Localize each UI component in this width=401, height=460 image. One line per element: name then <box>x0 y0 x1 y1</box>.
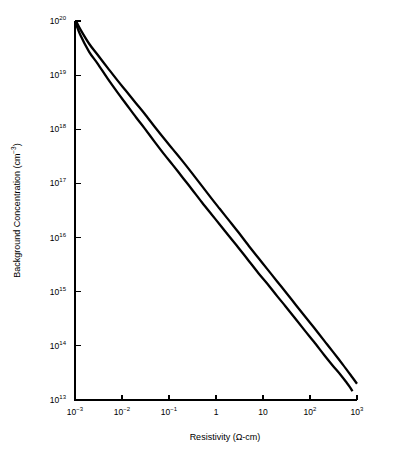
x-axis-title: Resistivity (Ω-cm) <box>190 432 261 442</box>
resistivity-concentration-chart: 10−310−210−1110102103 101310141015101610… <box>0 0 401 460</box>
y-axis-title: Background Concentration (cm−3) <box>10 143 22 277</box>
x-tick-label: 10 <box>258 407 268 417</box>
x-tick-label: 102 <box>304 406 317 417</box>
y-tick-label: 1017 <box>50 177 67 188</box>
y-tick-label: 1015 <box>50 286 67 297</box>
chart-canvas: 10−310−210−1110102103 101310141015101610… <box>0 0 401 460</box>
x-tick-label: 10−3 <box>67 406 84 417</box>
y-tick-label: 1018 <box>50 123 67 134</box>
y-tick-label: 1014 <box>50 340 67 351</box>
y-tick-labels-group: 10131014101510161017101810191020 <box>50 15 67 405</box>
x-tick-label: 1 <box>214 407 219 417</box>
axis-titles-group: Resistivity (Ω-cm)Background Concentrati… <box>10 143 260 442</box>
y-tick-label: 1016 <box>50 232 67 243</box>
y-tick-label: 1019 <box>50 69 67 80</box>
x-tick-labels-group: 10−310−210−1110102103 <box>67 406 364 417</box>
data-curve <box>76 21 357 384</box>
x-tick-label: 10−1 <box>161 406 178 417</box>
data-curve <box>75 21 352 391</box>
x-tick-label: 10−2 <box>114 406 131 417</box>
y-tick-label: 1020 <box>50 15 67 26</box>
x-tick-label: 103 <box>351 406 364 417</box>
y-tick-label: 1013 <box>50 394 67 405</box>
data-curves-group <box>75 21 357 391</box>
